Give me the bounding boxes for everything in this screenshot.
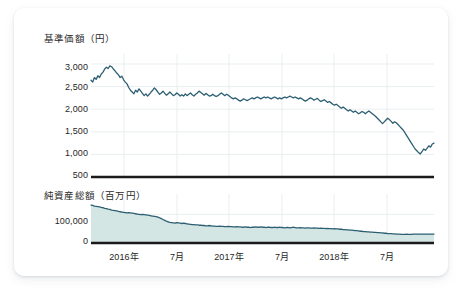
nav-line-series <box>91 66 434 154</box>
charts-svg <box>0 0 463 288</box>
aum-area-fill <box>91 205 434 243</box>
nav-gridlines <box>91 54 434 177</box>
chart-page: 基準価額（円） 純資産総額（百万円） 3,000 2,500 2,000 1,5… <box>0 0 463 288</box>
